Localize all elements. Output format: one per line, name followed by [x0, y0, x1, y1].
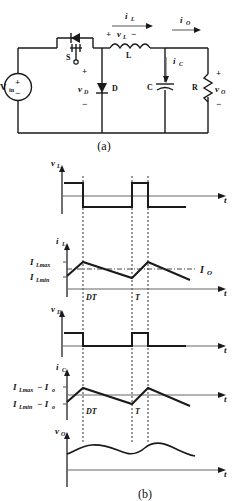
waveforms-panel-b: v L t i L t I Lmax I Lmin I O — [0, 152, 235, 501]
vo-time-label: t — [224, 469, 227, 479]
switch-gate-terminal — [74, 60, 78, 64]
resistor-label: R — [192, 83, 198, 92]
plot-diode-voltage: v D t — [51, 304, 227, 357]
il-min-label: I — [29, 272, 34, 282]
il-min-label-sub: Lmin — [35, 277, 50, 283]
ic-max-label-suffix: − I — [37, 382, 49, 392]
ic-max-label-suffix-sub: o — [52, 387, 55, 393]
output-voltage-subscript: O — [221, 89, 226, 95]
il-trace — [67, 262, 190, 280]
ic-max-label: I — [12, 382, 17, 392]
capacitor-label: C — [147, 83, 153, 92]
vl-trace — [64, 183, 186, 207]
plot-inductor-current: i L t I Lmax I Lmin I O DT T — [29, 236, 227, 302]
source-label: V — [0, 82, 7, 92]
il-axis-label-sub: L — [61, 241, 66, 247]
ic-min-label-sub: Lmin — [18, 404, 33, 410]
ic-subscript: C — [179, 61, 184, 67]
source-label-sub: in — [9, 87, 15, 93]
inductor-voltage-subscript: L — [122, 34, 127, 40]
output-plus: + — [216, 68, 221, 78]
ic-max-label-sub: Lmax — [18, 387, 33, 393]
diode-voltage-plus: + — [82, 66, 87, 76]
inductor-voltage-minus: − — [131, 29, 136, 39]
ic-time-label: t — [224, 394, 227, 404]
il-max-label-sub: Lmax — [35, 262, 50, 268]
io-average-label: I — [199, 264, 205, 275]
vd-time-label: t — [224, 345, 227, 355]
io-arrow-head — [194, 27, 201, 33]
ic-marker-t: T — [135, 407, 141, 416]
inductor-voltage-plus: + — [106, 29, 111, 39]
il-axis-label: i — [56, 236, 59, 246]
ic-symbol: i — [173, 56, 176, 66]
il-subscript: L — [130, 16, 135, 22]
diode-voltage-minus: − — [82, 99, 87, 109]
cap-plate-bottom — [157, 88, 173, 91]
inductor-label: L — [126, 51, 131, 60]
io-symbol: i — [180, 15, 183, 25]
vo-axis-label-sub: O — [61, 431, 66, 437]
figure-root: S L + v L − i L i O + − V in — [0, 0, 235, 501]
switch-body-diode-triangle — [71, 33, 80, 43]
il-arrow-head — [146, 23, 153, 29]
il-max-label: I — [29, 257, 34, 267]
circuit-panel-a: S L + v L − i L i O + − V in — [0, 0, 235, 152]
il-marker-t: T — [135, 293, 141, 302]
io-subscript: O — [186, 20, 191, 26]
output-voltage-symbol: v — [215, 84, 220, 94]
io-average-label-sub: O — [207, 269, 212, 277]
vl-axis-label-sub: L — [56, 163, 61, 169]
ic-marker-dt: DT — [85, 407, 98, 416]
vl-time-label: t — [224, 195, 227, 205]
vd-axis-label-sub: D — [56, 309, 62, 315]
inductor-voltage-symbol: v — [117, 29, 122, 39]
il-time-label: t — [224, 288, 227, 298]
vo-trace — [67, 443, 195, 456]
switch-label: S — [66, 53, 71, 62]
ic-arrow-head — [163, 76, 169, 83]
plot-output-voltage: v O t — [55, 426, 227, 487]
panel-b-label: (b) — [138, 487, 152, 501]
source-plus: + — [15, 77, 20, 87]
inductor-coils — [110, 44, 150, 48]
panel-a-label: (a) — [97, 139, 110, 152]
ic-min-label: I — [12, 399, 17, 409]
vd-trace — [64, 333, 186, 346]
diode-voltage-symbol: v — [78, 84, 83, 94]
ic-trace — [67, 388, 190, 406]
ic-axis-label: i — [56, 362, 59, 372]
plot-capacitor-current: i C t I Lmax − I o I Lmin − I o DT T — [12, 362, 227, 420]
vd-axis-label: v — [51, 304, 56, 314]
output-minus: − — [216, 99, 221, 109]
plot-inductor-voltage: v L t — [51, 158, 227, 214]
il-marker-dt: DT — [85, 293, 98, 302]
source-minus: − — [15, 88, 20, 98]
diode-label: D — [112, 84, 118, 93]
diode-voltage-subscript: D — [83, 89, 89, 95]
vl-axis-label: v — [51, 158, 56, 168]
ic-min-label-suffix: − I — [37, 399, 49, 409]
vo-axis-label: v — [55, 426, 60, 436]
ic-min-label-suffix-sub: o — [52, 404, 55, 410]
diode-triangle — [97, 83, 107, 93]
il-symbol: i — [125, 11, 128, 21]
